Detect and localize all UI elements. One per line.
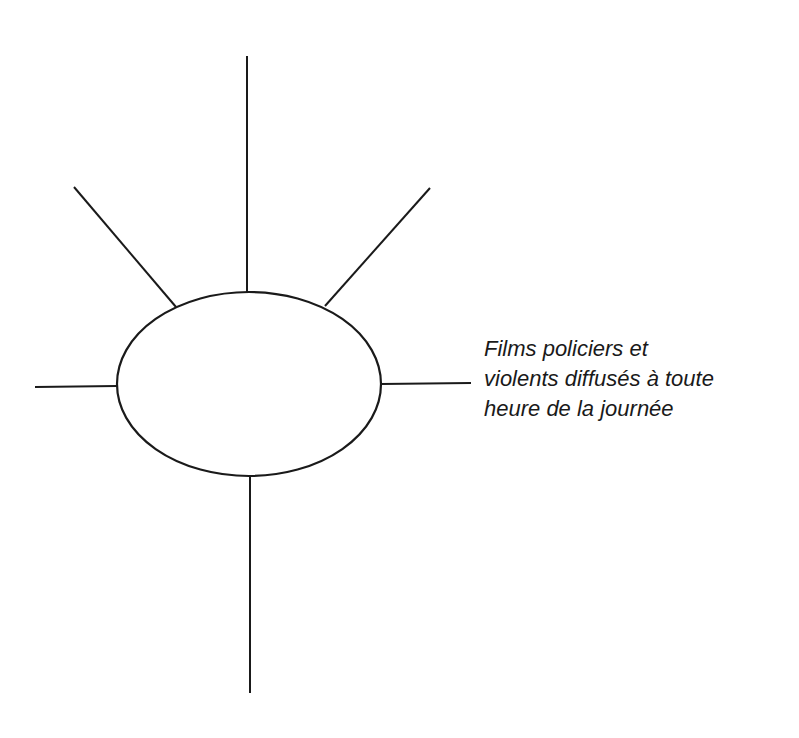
- spoke-left: [35, 386, 117, 387]
- spoke-right: [381, 383, 471, 384]
- right-spoke-label-line-3: heure de la journée: [484, 394, 784, 424]
- spoke-upper-right: [325, 188, 430, 306]
- central-hub-ellipse: [117, 292, 381, 476]
- spoke-upper-left: [74, 187, 176, 307]
- right-spoke-label-line-1: Films policiers et: [484, 334, 784, 364]
- right-spoke-label-line-2: violents diffusés à toute: [484, 364, 784, 394]
- right-spoke-label: Films policiers et violents diffusés à t…: [484, 334, 784, 424]
